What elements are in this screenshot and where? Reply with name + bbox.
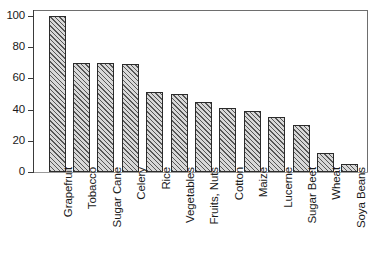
y-axis-tick-label: 100 [0, 10, 25, 21]
x-axis-category-label: Lucerne [282, 167, 294, 267]
y-axis-tick-label: 60 [0, 72, 25, 83]
bar [195, 102, 212, 172]
bar [244, 111, 261, 172]
bar [49, 16, 66, 172]
x-axis-category-label: Rice [160, 167, 172, 267]
x-axis-category-label: Vegetables [184, 167, 196, 267]
x-axis-category-label: Maize [257, 167, 269, 267]
bar [268, 117, 285, 172]
y-axis-tick-label: 80 [0, 41, 25, 52]
bar [146, 92, 163, 172]
x-axis-category-label: Fruits, Nuts [208, 167, 220, 267]
x-axis-category-label: Sugar Beet [306, 167, 318, 267]
x-axis-category-labels: GrapefruitTobaccoSugar CaneCeleryRiceVeg… [33, 173, 368, 273]
bars-container [33, 10, 368, 173]
bar [73, 63, 90, 172]
y-axis-tick-label: 20 [0, 135, 25, 146]
x-axis-category-label: Cotton [233, 167, 245, 267]
x-axis-category-label: Sugar Cane [111, 167, 123, 267]
x-axis-category-label: Tobacco [86, 167, 98, 267]
x-axis-category-label: Celery [135, 167, 147, 267]
bar [122, 64, 139, 172]
bar [97, 63, 114, 172]
y-axis-tick-label: 0 [0, 166, 25, 177]
y-axis-tick-label: 40 [0, 104, 25, 115]
x-axis-category-label: Wheat [330, 167, 342, 267]
bar [219, 108, 236, 172]
bar [293, 125, 310, 172]
bar [171, 94, 188, 172]
x-axis-category-label: Soya Beans [355, 167, 367, 267]
x-axis-category-label: Grapefruit [62, 167, 74, 267]
bar-chart-figure: 020406080100 GrapefruitTobaccoSugar Cane… [0, 0, 373, 273]
